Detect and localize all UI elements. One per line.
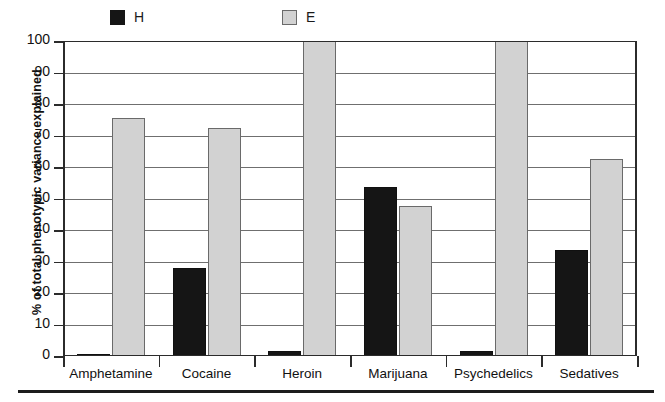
y-axis-tick-mark <box>54 199 63 201</box>
bottom-rule-divider <box>18 390 654 393</box>
y-axis-tick: 90 <box>0 73 63 74</box>
legend-item-h: H <box>110 6 144 28</box>
bar-cocaine-e <box>208 128 241 356</box>
y-axis-tick-mark <box>54 230 63 232</box>
bar-cocaine-h <box>173 268 206 356</box>
y-axis-tick: 10 <box>0 325 63 326</box>
y-axis-tick-label: 0 <box>42 346 50 362</box>
y-axis-tick-label: 100 <box>27 31 50 47</box>
y-axis-tick-mark <box>54 73 63 75</box>
gridline <box>63 325 637 326</box>
y-axis-tick-mark <box>54 356 63 358</box>
bar-chart-figure: H E % of total phenotypic variance expla… <box>0 0 665 402</box>
y-axis-tick: 0 <box>0 356 63 357</box>
y-axis-tick: 70 <box>0 136 63 137</box>
gridline <box>63 136 637 137</box>
y-axis-tick: 50 <box>0 199 63 200</box>
gridline <box>63 199 637 200</box>
y-axis-tick: 30 <box>0 262 63 263</box>
y-axis-tick-label: 50 <box>34 189 50 205</box>
y-axis-tick-mark <box>54 262 63 264</box>
x-axis-label-marijuana: Marijuana <box>350 366 446 381</box>
y-axis-tick-label: 30 <box>34 252 50 268</box>
y-axis-tick: 60 <box>0 167 63 168</box>
y-axis-tick: 20 <box>0 293 63 294</box>
legend-label-h: H <box>134 9 144 25</box>
x-axis-label-cocaine: Cocaine <box>159 366 255 381</box>
bar-marijuana-e <box>399 206 432 356</box>
bar-amphetamine-e <box>112 118 145 356</box>
x-axis: AmphetamineCocaineHeroinMarijuanaPsyched… <box>63 356 637 388</box>
gray-square-swatch-icon <box>282 10 297 25</box>
bar-psychedelics-e <box>495 41 528 356</box>
bar-sedatives-e <box>590 159 623 356</box>
x-axis-label-heroin: Heroin <box>254 366 350 381</box>
y-axis-tick-label: 40 <box>34 220 50 236</box>
gridline <box>63 230 637 231</box>
bar-marijuana-h <box>364 187 397 356</box>
plot-area <box>63 41 637 356</box>
y-axis-tick-mark <box>54 104 63 106</box>
y-axis-tick-label: 70 <box>34 126 50 142</box>
y-axis-tick-mark <box>54 41 63 43</box>
bar-heroin-e <box>303 41 336 356</box>
x-axis-label-psychedelics: Psychedelics <box>446 366 542 381</box>
y-axis-tick-mark <box>54 167 63 169</box>
y-axis-tick-label: 60 <box>34 157 50 173</box>
y-axis-tick-mark <box>54 293 63 295</box>
gridline <box>63 104 637 105</box>
x-axis-label-amphetamine: Amphetamine <box>63 366 159 381</box>
bar-sedatives-h <box>555 250 588 356</box>
gridline <box>63 293 637 294</box>
legend-item-e: E <box>282 6 316 28</box>
gridline <box>63 262 637 263</box>
legend-label-e: E <box>306 9 316 25</box>
y-axis-tick-mark <box>54 325 63 327</box>
x-axis-separator <box>637 356 639 367</box>
black-square-swatch-icon <box>110 10 125 25</box>
y-axis-tick-label: 20 <box>34 283 50 299</box>
y-axis-tick-label: 90 <box>34 63 50 79</box>
gridline <box>63 73 637 74</box>
y-axis-tick-mark <box>54 136 63 138</box>
gridline <box>63 167 637 168</box>
y-axis-tick-label: 10 <box>34 315 50 331</box>
y-axis-tick: 40 <box>0 230 63 231</box>
chart-legend: H E <box>100 6 520 30</box>
y-axis-tick: 100 <box>0 41 63 42</box>
x-axis-label-sedatives: Sedatives <box>541 366 637 381</box>
y-axis-tick-label: 80 <box>34 94 50 110</box>
y-axis-tick: 80 <box>0 104 63 105</box>
